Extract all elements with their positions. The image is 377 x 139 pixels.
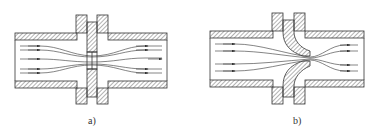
figure-b-label: b): [293, 115, 301, 126]
flow-meter-diagram: [0, 0, 377, 139]
figure-a-orifice: [15, 15, 167, 104]
figure-a-label: a): [88, 115, 96, 126]
figure-b-nozzle: [210, 13, 364, 104]
